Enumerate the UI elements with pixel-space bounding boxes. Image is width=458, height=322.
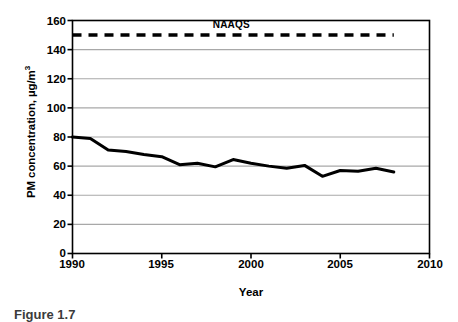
figure-caption: Figure 1.7 [14, 307, 75, 322]
x-axis-tick-labels: 1990 1995 2000 2005 2010 [0, 0, 458, 322]
x-axis-title: Year [72, 286, 430, 298]
figure-container: PM concentration, µg/m3 160 140 120 100 … [0, 0, 458, 322]
x-tick-label-1995: 1995 [137, 258, 185, 271]
x-tick-label-2010: 2010 [406, 258, 454, 271]
x-tick-label-1990: 1990 [48, 258, 96, 271]
x-tick-label-2000: 2000 [227, 258, 275, 271]
x-tick-label-2005: 2005 [316, 258, 364, 271]
